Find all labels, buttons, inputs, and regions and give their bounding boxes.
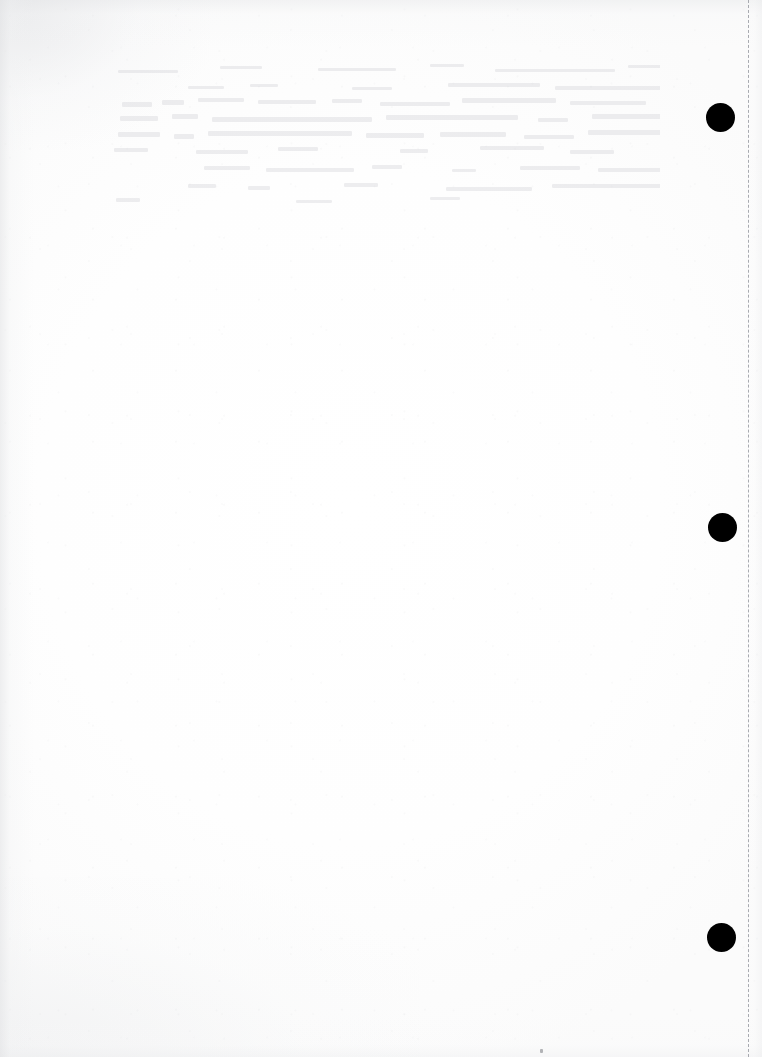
registration-mark-top (706, 103, 735, 132)
page-content-area (60, 200, 680, 900)
crop-line-right (748, 0, 749, 1057)
registration-mark-middle (708, 513, 737, 542)
registration-mark-bottom (707, 923, 736, 952)
scanned-page (0, 0, 762, 1057)
ink-speck (540, 1049, 543, 1053)
